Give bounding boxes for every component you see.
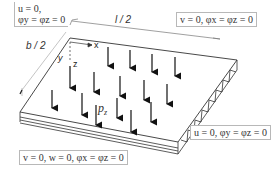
bc-box-top-right: v = 0, φx = φz = 0 bbox=[176, 12, 257, 27]
length-label: l / 2 bbox=[115, 14, 131, 25]
bc-box-top-left: u = 0, φy = φz = 0 bbox=[14, 2, 68, 27]
z-axis-label: z bbox=[73, 59, 78, 69]
width-label: b / 2 bbox=[26, 40, 45, 51]
x-axis-label: x bbox=[94, 40, 99, 50]
bc-top-left-line1: u = 0, bbox=[18, 3, 65, 14]
bc-box-right: u = 0, φy = φz = 0 bbox=[190, 125, 271, 140]
bc-box-bottom: v = 0, w = 0, φx = φz = 0 bbox=[19, 150, 128, 165]
load-label-pz: pz bbox=[98, 101, 107, 117]
y-axis-label: y bbox=[58, 53, 63, 63]
bc-top-left-line2: φy = φz = 0 bbox=[18, 14, 65, 25]
